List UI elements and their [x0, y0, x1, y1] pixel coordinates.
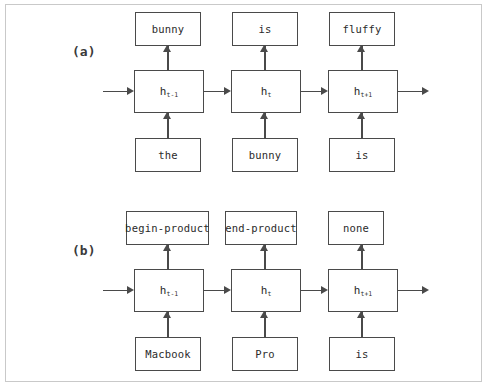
connector-b-rec-2 [301, 290, 322, 292]
arrowhead-b-out-right [422, 286, 429, 294]
arrowhead-a-out-3 [357, 45, 365, 52]
arrowhead-a-rec-2 [321, 87, 328, 95]
arrowhead-b-in-1 [163, 311, 171, 318]
hidden-state-box-b-1: ht-1 [134, 269, 204, 312]
panel-a: (a) bunny is fluffy ht-1 ht ht+1 [0, 0, 489, 195]
hidden-state-label-b-3: ht+1 [354, 284, 373, 297]
hidden-state-box-a-2: ht [231, 70, 301, 113]
arrowhead-a-in-3 [357, 112, 365, 119]
input-box-a-1: the [135, 138, 201, 172]
connector-b-rec-1 [204, 290, 225, 292]
hidden-state-box-a-3: ht+1 [328, 70, 398, 113]
arrowhead-b-rec-2 [321, 286, 328, 294]
arrowhead-a-in-2 [260, 112, 268, 119]
input-box-a-3: is [329, 138, 395, 172]
connector-a-out-right [398, 91, 423, 93]
arrowhead-a-out-2 [260, 45, 268, 52]
output-box-a-2: is [232, 12, 298, 46]
hidden-state-box-a-1: ht-1 [134, 70, 204, 113]
arrowhead-b-out-1 [163, 244, 171, 251]
arrowhead-b-out-2 [260, 244, 268, 251]
panel-b-label: (b) [72, 243, 95, 258]
connector-b-in-left [103, 290, 128, 292]
output-box-b-3: none [328, 211, 384, 245]
hidden-state-box-b-2: ht [231, 269, 301, 312]
connector-a-rec-2 [301, 91, 322, 93]
output-box-b-1: begin-product [126, 211, 209, 245]
arrowhead-b-rec-1 [224, 286, 231, 294]
input-box-b-2: Pro [232, 337, 298, 371]
arrowhead-b-in-left [127, 286, 134, 294]
arrowhead-a-out-right [422, 87, 429, 95]
panel-a-label: (a) [72, 44, 95, 59]
output-box-a-3: fluffy [329, 12, 395, 46]
connector-a-in-left [103, 91, 128, 93]
hidden-state-box-b-3: ht+1 [328, 269, 398, 312]
panel-b: (b) begin-product end-product none ht-1 … [0, 195, 489, 389]
arrowhead-a-in-left [127, 87, 134, 95]
input-box-a-2: bunny [232, 138, 298, 172]
output-box-b-2: end-product [225, 211, 297, 245]
hidden-state-label-a-3: ht+1 [354, 85, 373, 98]
arrowhead-a-out-1 [163, 45, 171, 52]
input-box-b-3: is [329, 337, 395, 371]
connector-a-rec-1 [204, 91, 225, 93]
arrowhead-b-in-3 [357, 311, 365, 318]
output-box-a-1: bunny [135, 12, 201, 46]
hidden-state-label-b-1: ht-1 [160, 284, 179, 297]
arrowhead-a-in-1 [163, 112, 171, 119]
rnn-diagram-figure: (a) bunny is fluffy ht-1 ht ht+1 [0, 0, 489, 389]
arrowhead-b-in-2 [260, 311, 268, 318]
hidden-state-label-a-2: ht [261, 85, 272, 98]
hidden-state-label-a-1: ht-1 [160, 85, 179, 98]
arrowhead-a-rec-1 [224, 87, 231, 95]
input-box-b-1: Macbook [135, 337, 201, 371]
hidden-state-label-b-2: ht [261, 284, 272, 297]
arrowhead-b-out-3 [357, 244, 365, 251]
connector-b-out-right [398, 290, 423, 292]
